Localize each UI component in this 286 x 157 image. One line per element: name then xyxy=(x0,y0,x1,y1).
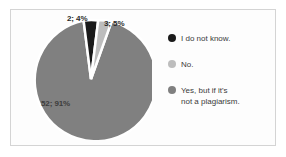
legend-marker-icon xyxy=(168,86,176,94)
pie-chart: 2; 4% 3; 5% 52; 91% I do not know. No. Y… xyxy=(0,0,286,157)
legend-item-yes-but-if-its-not-a-plagiarism[interactable]: Yes, but if it's not a plagiarism. xyxy=(168,85,276,107)
data-label-yes-but-if-its-not-a-plagiarism: 52; 91% xyxy=(41,99,70,108)
data-label-no: 3; 5% xyxy=(104,19,124,28)
legend-item-no[interactable]: No. xyxy=(168,59,276,70)
pie-svg xyxy=(30,18,152,140)
pie-slices xyxy=(35,20,152,140)
legend-item-label: Yes, but if it's not a plagiarism. xyxy=(181,85,240,107)
chart-legend: I do not know. No. Yes, but if it's not … xyxy=(168,33,276,122)
legend-marker-icon xyxy=(168,60,176,68)
legend-marker-icon xyxy=(168,34,176,42)
legend-item-label: No. xyxy=(181,59,193,70)
data-label-i-do-not-know: 2; 4% xyxy=(67,14,87,23)
legend-item-label: I do not know. xyxy=(181,33,230,44)
pie-graphic xyxy=(30,18,152,140)
legend-item-i-do-not-know[interactable]: I do not know. xyxy=(168,33,276,44)
